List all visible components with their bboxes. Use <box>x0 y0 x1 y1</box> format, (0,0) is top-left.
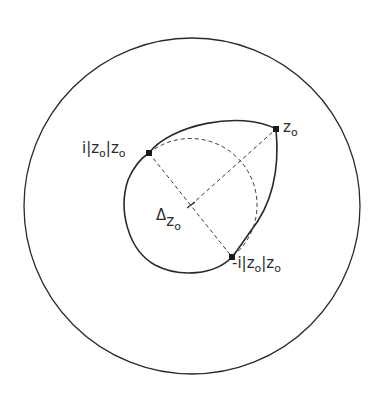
label-plus-i-z0: i|zo|zo <box>82 139 126 160</box>
label-region-delta: Δzo <box>156 206 181 233</box>
outer-unit-circle <box>24 38 360 374</box>
label-z0: zo <box>283 118 298 139</box>
point-plus-i-marker <box>146 150 152 156</box>
teardrop-region-boundary <box>124 121 277 273</box>
dashed-radius-to-z0 <box>191 129 276 205</box>
disk-diagram: zo i|zo|zo -i|zo|zo Δzo <box>0 0 377 403</box>
dashed-semicircle <box>149 138 257 257</box>
point-z0-marker <box>273 126 279 132</box>
label-minus-i-z0: -i|zo|zo <box>232 254 281 275</box>
